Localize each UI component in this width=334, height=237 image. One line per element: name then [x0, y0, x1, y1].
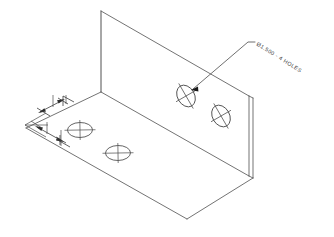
hole-vertical-right-center-mark [204, 98, 238, 135]
hole-vertical-left-center-mark [169, 78, 203, 115]
hole-base-left [64, 120, 95, 141]
hole-callout-group: Ø1.500 - 4 HOLES [191, 41, 303, 92]
dim-upper [37, 95, 74, 116]
horizontal-base-plate [26, 92, 253, 219]
technical-drawing-canvas: Ø1.500 - 4 HOLES [0, 0, 334, 237]
dimension-origin-marker [25, 113, 48, 137]
back-plate-thickness-bottom [249, 176, 253, 178]
hole-vertical-left [169, 78, 203, 115]
hole-callout-text: Ø1.500 - 4 HOLES [255, 41, 303, 74]
base-plate-front-left-edge [26, 128, 187, 219]
hole-vertical-right [204, 98, 238, 135]
dim-upper-tick-right [63, 96, 74, 102]
base-plate-front-right-edge [187, 178, 253, 219]
dimension-origin-lower-leg [25, 125, 46, 137]
dimension-stack [25, 95, 74, 147]
part-geometry [26, 11, 253, 219]
dimension-witness-marks [56, 96, 68, 145]
dim-lower-arrow-left [35, 126, 43, 131]
hole-base-right-center-mark [102, 143, 133, 164]
back-plate-thickness-top [249, 96, 253, 98]
isometric-part-view: Ø1.500 - 4 HOLES [0, 0, 334, 237]
hole-base-left-center-mark [64, 120, 95, 141]
hole-base-right [102, 143, 133, 164]
back-plate-bottom-edge [101, 92, 249, 176]
base-plate-left-edge [26, 92, 101, 128]
back-plate-top-edge [101, 11, 249, 96]
